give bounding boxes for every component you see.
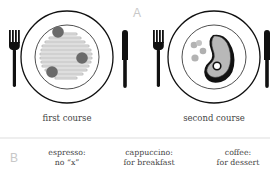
coffee-name: espresso:	[48, 148, 85, 158]
coffee-rule: for dessert	[217, 158, 260, 168]
peas-icon	[191, 40, 207, 62]
coffee-note-espresso: espresso: no “x”	[48, 148, 85, 168]
fork-icon	[9, 30, 20, 87]
knife-icon	[264, 30, 270, 88]
first-course-caption: first course	[42, 113, 91, 123]
coffee-rule: no “x”	[48, 158, 85, 168]
coffee-name: cappuccino:	[123, 148, 174, 158]
coffee-note-coffee: coffee: for dessert	[217, 148, 260, 168]
second-course-caption: second course	[183, 113, 245, 123]
coffee-name: coffee:	[217, 148, 260, 158]
knife-icon	[122, 30, 128, 88]
steak-icon	[204, 35, 234, 83]
place-settings-illustration	[0, 0, 270, 171]
panel-b-label: B	[10, 151, 18, 165]
panel-a-label: A	[133, 6, 141, 20]
fork-icon	[153, 30, 164, 87]
coffee-note-cappuccino: cappuccino: for breakfast	[123, 148, 174, 168]
divider	[0, 137, 270, 139]
coffee-rule: for breakfast	[123, 158, 174, 168]
